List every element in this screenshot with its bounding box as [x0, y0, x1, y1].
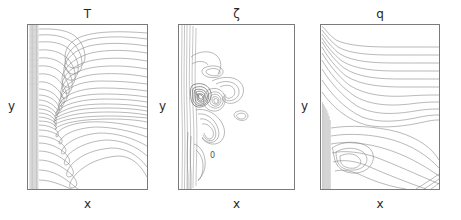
panel-zeta-xlabel: x: [178, 198, 295, 210]
panel-q-ylabel: y: [301, 100, 308, 112]
panel-T-contours: [27, 24, 148, 190]
panel-T-ylabel: y: [8, 100, 15, 112]
zeta-zero-contour-label: 0: [209, 152, 216, 160]
panel-T-xlabel: x: [27, 198, 148, 210]
panel-zeta-ylabel: y: [159, 100, 166, 112]
panel-zeta: 0 ζ y x: [178, 24, 295, 190]
panel-q-title: q: [320, 8, 440, 20]
panel-T-title: T: [27, 8, 148, 20]
panel-zeta-title: ζ: [178, 8, 295, 20]
panel-q-contours: [320, 24, 440, 190]
contour-figure: T y x: [0, 0, 461, 220]
panel-q: q y x: [320, 24, 440, 190]
panel-zeta-contours: [178, 24, 295, 190]
panel-q-xlabel: x: [320, 198, 440, 210]
panel-T: T y x: [27, 24, 148, 190]
